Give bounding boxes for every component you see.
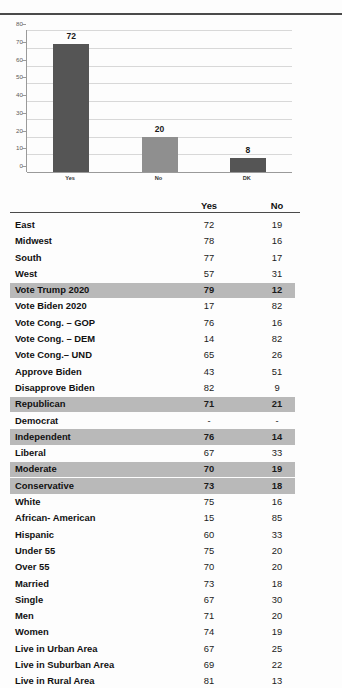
row-value-yes: 75: [180, 494, 238, 510]
row-label: Moderate: [15, 461, 57, 477]
x-axis-line: [27, 172, 292, 173]
table-row[interactable]: Single6730: [0, 592, 342, 608]
row-value-no: 18: [248, 478, 306, 494]
table-row[interactable]: Vote Trump 20207912: [0, 282, 342, 298]
row-value-yes: 17: [180, 298, 238, 314]
table-row[interactable]: Moderate7019: [0, 461, 342, 477]
row-value-no: 31: [248, 266, 306, 282]
row-label: Vote Cong. – GOP: [15, 315, 95, 331]
y-axis-tick-mark: [22, 24, 26, 25]
row-value-no: 21: [248, 396, 306, 412]
row-value-yes: 75: [180, 543, 238, 559]
table-row[interactable]: Vote Cong. – GOP7616: [0, 315, 342, 331]
row-value-no: 13: [248, 673, 306, 688]
bar-value-label: 20: [140, 125, 180, 134]
row-label: Live in Rural Area: [15, 673, 94, 688]
x-axis-category-label: DK: [222, 176, 272, 182]
table-row[interactable]: Over 557020: [0, 559, 342, 575]
row-label: Women: [15, 624, 49, 640]
row-value-yes: 81: [180, 673, 238, 688]
table-row[interactable]: Republican7121: [0, 396, 342, 412]
row-value-no: 9: [248, 380, 306, 396]
table-row[interactable]: Approve Biden4351: [0, 364, 342, 380]
table-row[interactable]: Men7120: [0, 608, 342, 624]
row-value-yes: 78: [180, 233, 238, 249]
row-value-no: 25: [248, 641, 306, 657]
row-value-yes: 67: [180, 592, 238, 608]
row-value-no: 22: [248, 657, 306, 673]
row-label: Vote Biden 2020: [15, 298, 87, 314]
row-value-no: 82: [248, 298, 306, 314]
row-value-yes: 71: [180, 608, 238, 624]
table-row[interactable]: Hispanic6033: [0, 527, 342, 543]
row-label: Hispanic: [15, 527, 54, 543]
table-row[interactable]: West5731: [0, 266, 342, 282]
table-row[interactable]: Live in Urban Area6725: [0, 641, 342, 657]
row-label: Independent: [15, 429, 71, 445]
chart-bar: [230, 158, 266, 172]
row-value-yes: 73: [180, 576, 238, 592]
row-label: Over 55: [15, 559, 49, 575]
row-value-no: 16: [248, 315, 306, 331]
chart-plot-area: 72208: [26, 30, 292, 172]
row-value-no: 16: [248, 494, 306, 510]
table-body: East7219Midwest7816South7717West5731Vote…: [0, 217, 342, 688]
row-value-no: 16: [248, 233, 306, 249]
row-label: Republican: [15, 396, 66, 412]
y-axis: 01020304050607080: [0, 24, 26, 166]
row-value-yes: 57: [180, 266, 238, 282]
row-label: White: [15, 494, 41, 510]
row-label: Democrat: [15, 413, 58, 429]
row-value-no: 19: [248, 461, 306, 477]
table-row[interactable]: Vote Cong.– UND6526: [0, 347, 342, 363]
row-value-no: 19: [248, 624, 306, 640]
row-value-yes: 73: [180, 478, 238, 494]
bar-value-label: 8: [228, 146, 268, 155]
table-row[interactable]: Live in Suburban Area6922: [0, 657, 342, 673]
table-row[interactable]: Midwest7816: [0, 233, 342, 249]
row-label: Conservative: [15, 478, 74, 494]
row-value-no: 14: [248, 429, 306, 445]
row-value-no: 82: [248, 331, 306, 347]
row-value-no: 51: [248, 364, 306, 380]
row-value-yes: 82: [180, 380, 238, 396]
table-row[interactable]: Live in Rural Area8113: [0, 673, 342, 688]
table-header-row: Yes No: [0, 196, 342, 213]
x-axis-category-label: Yes: [45, 176, 95, 182]
table-row[interactable]: Liberal6733: [0, 445, 342, 461]
table-row[interactable]: Disapprove Biden829: [0, 380, 342, 396]
table-row[interactable]: White7516: [0, 494, 342, 510]
row-value-yes: 76: [180, 315, 238, 331]
table-row[interactable]: Vote Biden 20201782: [0, 298, 342, 314]
row-value-no: 85: [248, 510, 306, 526]
table-row[interactable]: Vote Cong. – DEM1482: [0, 331, 342, 347]
row-label: Approve Biden: [15, 364, 82, 380]
row-label: South: [15, 250, 42, 266]
table-row[interactable]: Married7318: [0, 576, 342, 592]
row-value-yes: 67: [180, 445, 238, 461]
row-label: Under 55: [15, 543, 55, 559]
row-value-yes: 70: [180, 559, 238, 575]
row-value-yes: 74: [180, 624, 238, 640]
row-label: Liberal: [15, 445, 46, 461]
table-row[interactable]: African- American1585: [0, 510, 342, 526]
row-value-yes: 60: [180, 527, 238, 543]
table-row[interactable]: South7717: [0, 250, 342, 266]
row-value-no: 19: [248, 217, 306, 233]
table-row[interactable]: Independent7614: [0, 429, 342, 445]
row-value-yes: 79: [180, 282, 238, 298]
table-row[interactable]: East7219: [0, 217, 342, 233]
table-row[interactable]: Women7419: [0, 624, 342, 640]
row-value-yes: 72: [180, 217, 238, 233]
row-value-no: 20: [248, 543, 306, 559]
row-value-yes: 71: [180, 396, 238, 412]
table-row[interactable]: Under 557520: [0, 543, 342, 559]
row-label: Single: [15, 592, 43, 608]
row-label: West: [15, 266, 37, 282]
row-value-no: -: [248, 413, 306, 429]
row-value-yes: -: [180, 413, 238, 429]
row-value-no: 26: [248, 347, 306, 363]
table-row[interactable]: Conservative7318: [0, 478, 342, 494]
row-label: Men: [15, 608, 34, 624]
table-row[interactable]: Democrat--: [0, 413, 342, 429]
